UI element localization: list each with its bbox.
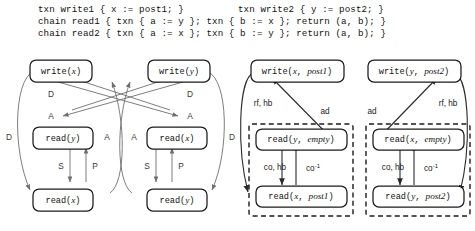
edge-d-cross-left <box>58 82 178 116</box>
edge-label-co-hb-right: co, hb <box>382 163 405 172</box>
edge-label-co-hb-left: co, hb <box>264 163 287 172</box>
edge-label-s-right: S <box>144 161 150 171</box>
node-read-y-1-label: read(y) <box>45 133 80 144</box>
node-read-x-post1-label: read(x, post1) <box>268 191 333 202</box>
edge-label-ad-right: ad <box>367 107 377 116</box>
edge-rf-hb-left <box>241 73 253 192</box>
edge-d-cross-right <box>63 82 183 116</box>
edge-label-co-inv-right: co-1 <box>424 162 439 173</box>
edge-d-outer-left <box>18 72 33 190</box>
figure-root: txn write1 { x := post1; } txn write2 { … <box>0 0 475 231</box>
edge-label-d-outer-right: D <box>229 132 235 142</box>
edge-label-p-left: P <box>92 161 98 171</box>
edge-label-rf-hb-right: rf, hb <box>439 99 458 108</box>
node-read-y-2-label: read(y) <box>159 195 194 206</box>
edge-label-a-inner-right: A <box>131 132 137 142</box>
node-write-x-post1-label: write(x, post1) <box>262 66 332 77</box>
edge-label-rf-hb-left: rf, hb <box>254 99 273 108</box>
node-read-x-empty-label: read(x, empty) <box>384 134 451 145</box>
edge-label-a-inner-left: A <box>104 132 110 142</box>
edge-label-a-right: A <box>187 111 193 121</box>
node-read-x-2-label: read(x) <box>159 133 194 144</box>
edge-label-d-right: D <box>187 89 193 99</box>
edge-label-s-left: S <box>58 161 64 171</box>
edge-label-d-left: D <box>48 89 54 99</box>
node-read-x-1-label: read(x) <box>45 195 80 206</box>
edge-label-ad-left: ad <box>320 107 330 116</box>
node-write-y-post2-label: write(y, post2) <box>379 66 449 77</box>
node-read-y-post2-label: read(y, post2) <box>385 191 450 202</box>
node-write-x-label: write(x) <box>41 66 81 77</box>
edge-label-co-inv-left: co-1 <box>306 162 321 173</box>
edge-d-outer-right <box>208 72 224 190</box>
edge-label-a-left: A <box>48 111 54 121</box>
diagram-canvas: write(x) write(y) read(y) read(x) read(x… <box>0 0 475 231</box>
right-nodes: write(x, post1) write(y, post2) read(y, … <box>251 60 464 207</box>
node-write-y-label: write(y) <box>159 66 199 77</box>
node-read-y-empty-label: read(y, empty) <box>267 134 334 145</box>
edge-label-p-right: P <box>178 161 184 171</box>
edge-label-d-outer-left: D <box>6 132 12 142</box>
